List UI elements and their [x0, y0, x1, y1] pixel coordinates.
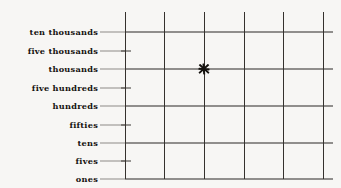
row-leader-line — [100, 106, 125, 107]
row-tick-stub — [121, 161, 131, 162]
vertical-rule — [164, 12, 165, 179]
row-label: fives — [76, 157, 98, 165]
vertical-rule — [283, 12, 284, 179]
vertical-rule — [244, 12, 245, 179]
row-leader-line — [100, 32, 125, 33]
x-marker — [197, 62, 211, 76]
vertical-rule — [204, 12, 205, 179]
horizontal-rule — [125, 106, 333, 107]
horizontal-rule — [125, 179, 333, 180]
row-label: ten thousands — [30, 28, 98, 36]
row-leader-line — [100, 143, 125, 144]
vertical-rule — [125, 12, 126, 179]
row-label: tens — [77, 139, 98, 147]
row-tick-stub — [121, 88, 131, 89]
place-value-chart-figure: ten thousandsfive thousandsthousandsfive… — [0, 0, 341, 188]
row-label: thousands — [48, 65, 98, 73]
row-leader-line — [100, 69, 125, 70]
row-label: ones — [76, 175, 98, 183]
row-label: five hundreds — [32, 84, 98, 92]
row-label: five thousands — [28, 47, 98, 55]
row-leader-line — [100, 179, 125, 180]
vertical-rule — [323, 12, 324, 179]
horizontal-rule — [125, 69, 333, 70]
row-tick-stub — [121, 51, 131, 52]
horizontal-rule — [125, 143, 333, 144]
row-tick-stub — [121, 125, 131, 126]
row-label: fifties — [69, 121, 98, 129]
row-label: hundreds — [53, 102, 98, 110]
horizontal-rule — [125, 32, 333, 33]
